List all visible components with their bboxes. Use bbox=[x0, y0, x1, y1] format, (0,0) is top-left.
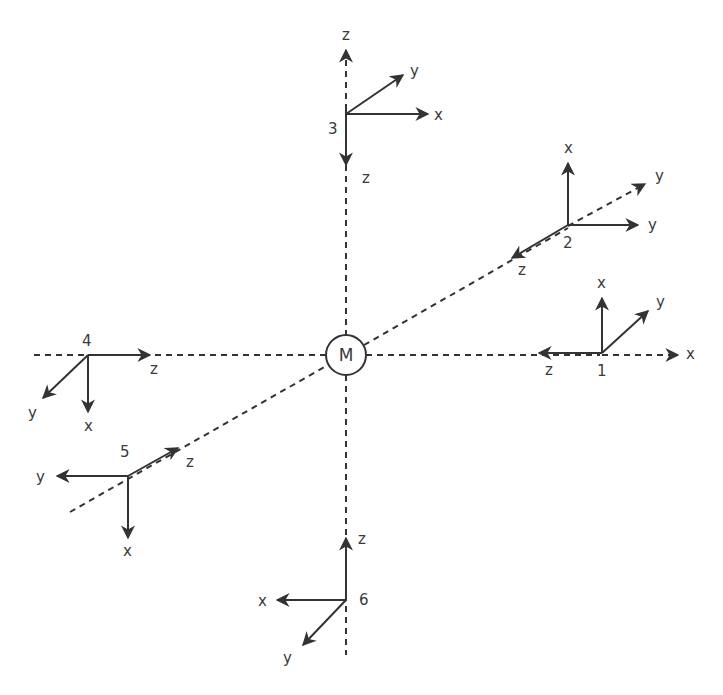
frame5-number: 5 bbox=[120, 443, 130, 461]
frame1-number: 1 bbox=[597, 362, 607, 380]
frame3-y-label: y bbox=[410, 62, 419, 80]
frame1-x-label: x bbox=[597, 274, 606, 292]
frame2-x-label: x bbox=[564, 139, 573, 157]
dashed-y-arrow-frame2 bbox=[568, 184, 645, 226]
frame2-y-label: y bbox=[648, 216, 657, 234]
frame6-y-arrow bbox=[303, 600, 346, 645]
frame6-number: 6 bbox=[359, 591, 369, 609]
diagram-svg: M z y x z 3 x y y 2 z bbox=[0, 0, 723, 695]
coordinate-frames-diagram: M z y x z 3 x y y 2 z bbox=[0, 0, 723, 695]
center-label: M bbox=[339, 345, 354, 365]
frame5-z-label: z bbox=[186, 453, 194, 471]
frame5-z-arrow bbox=[128, 448, 178, 476]
dashed-axes bbox=[34, 110, 600, 655]
frame3-y-arrow bbox=[346, 75, 403, 114]
frame1-dashed-x-label: x bbox=[686, 345, 695, 363]
frame5-x-label: x bbox=[123, 542, 132, 560]
frame2-z-arrow bbox=[512, 225, 568, 258]
frame1-z-label: z bbox=[545, 361, 553, 379]
frame2-number: 2 bbox=[563, 234, 573, 252]
frame4-x-label: x bbox=[84, 417, 93, 435]
frame3-z-label: z bbox=[362, 169, 370, 187]
frame3-dashed-z-label: z bbox=[342, 26, 350, 44]
frame5-y-label: y bbox=[36, 468, 45, 486]
frame2-dashed-y-label: y bbox=[655, 167, 664, 185]
diagonal-axis-lower bbox=[70, 365, 328, 512]
frame2-z-label: z bbox=[518, 261, 526, 279]
frame1-y-label: y bbox=[656, 293, 665, 311]
frame4-y-arrow bbox=[43, 355, 88, 398]
frame4-number: 4 bbox=[82, 332, 92, 350]
center-node-m: M bbox=[326, 335, 366, 375]
frame6-x-label: x bbox=[258, 592, 267, 610]
frame4-z-label: z bbox=[150, 360, 158, 378]
frame6-y-label: y bbox=[283, 649, 292, 667]
frame3-x-label: x bbox=[434, 106, 443, 124]
frame6-z-label: z bbox=[358, 530, 366, 548]
dashed-axis-arrows bbox=[346, 50, 678, 355]
diagonal-axis-upper bbox=[364, 228, 568, 345]
frame4-y-label: y bbox=[28, 404, 37, 422]
frame3-number: 3 bbox=[328, 120, 338, 138]
frame1-y-arrow bbox=[602, 311, 648, 353]
